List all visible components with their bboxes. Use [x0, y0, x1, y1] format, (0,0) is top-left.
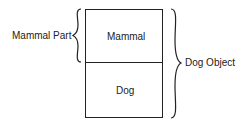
mammal-part-label: Mammal Part — [12, 30, 71, 41]
left-brace-icon — [73, 9, 81, 62]
dog-object-label: Dog Object — [185, 57, 235, 68]
right-brace-icon — [171, 9, 181, 118]
